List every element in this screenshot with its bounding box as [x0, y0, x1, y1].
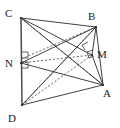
- vertex-dot-D: [21, 104, 23, 106]
- edge-C-M: [21, 18, 92, 55]
- edge-A-D: [22, 85, 103, 105]
- edge-dashed-N-M: [21, 55, 92, 63]
- vertex-label-A: A: [103, 87, 111, 99]
- vertex-label-C: C: [5, 7, 12, 19]
- vertex-dot-N: [20, 62, 22, 64]
- edge-C-D: [21, 18, 22, 105]
- geometry-canvas: C B M A N D: [0, 0, 120, 128]
- edge-N-B: [21, 27, 96, 63]
- right-angle-mark-group: [22, 42, 94, 68]
- vertex-label-N: N: [5, 57, 13, 69]
- vertex-dot-group: [20, 17, 104, 106]
- vertex-dot-A: [102, 84, 104, 86]
- vertex-dot-B: [95, 26, 97, 28]
- edge-C-A-solid: [21, 18, 103, 85]
- edge-C-B: [21, 18, 96, 27]
- vertex-label-D: D: [8, 112, 16, 124]
- vertex-label-M: M: [97, 48, 107, 60]
- vertex-dot-M: [91, 54, 93, 56]
- edge-N-A: [21, 63, 103, 85]
- vertex-dot-C: [20, 17, 22, 19]
- geometry-figure: C B M A N D: [0, 0, 120, 128]
- edge-dashed-D-M: [22, 55, 92, 105]
- edge-dashed-N-B: [21, 27, 96, 59]
- right-angle-B-lower: [82, 42, 88, 50]
- dashed-edge-group: [21, 18, 103, 105]
- vertex-label-B: B: [88, 10, 95, 22]
